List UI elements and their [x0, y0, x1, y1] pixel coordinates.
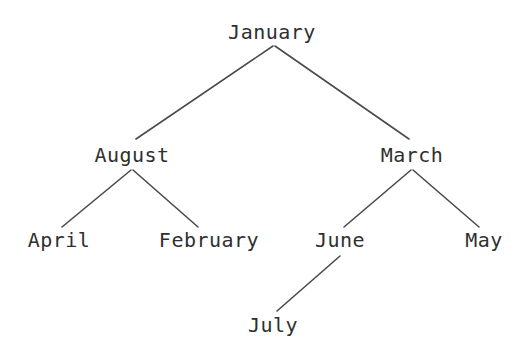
tree-edge-august-february — [133, 170, 198, 227]
tree-node-march[interactable]: March — [381, 145, 444, 165]
tree-edge-august-april — [62, 170, 131, 227]
tree-node-february[interactable]: February — [159, 230, 259, 250]
tree-diagram: JanuaryAugustMarchAprilFebruaryJuneMayJu… — [0, 0, 519, 364]
tree-edge-january-august — [136, 46, 273, 139]
tree-edge-march-may — [413, 170, 479, 227]
tree-edge-june-july — [277, 256, 340, 311]
tree-edge-march-june — [344, 170, 411, 227]
tree-node-june[interactable]: June — [315, 230, 365, 250]
tree-node-august[interactable]: August — [94, 145, 169, 165]
tree-node-january[interactable]: January — [228, 22, 316, 42]
tree-edge-january-march — [275, 46, 409, 139]
tree-node-july[interactable]: July — [248, 315, 298, 335]
tree-edge-layer — [0, 0, 519, 364]
tree-node-may[interactable]: May — [465, 230, 503, 250]
tree-node-april[interactable]: April — [28, 230, 91, 250]
